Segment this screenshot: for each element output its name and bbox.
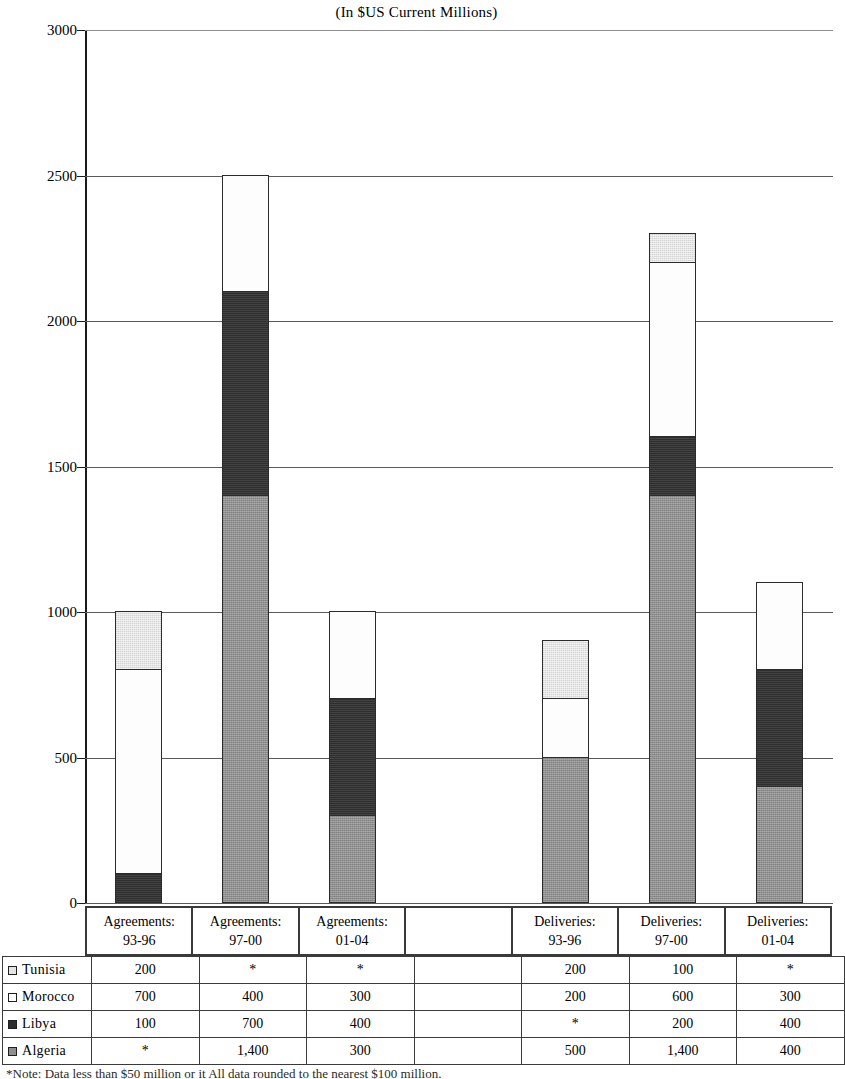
chart-plot-area: 050010001500200025003000 [0,22,833,912]
bar-agreements-97-00 [222,176,269,904]
legend-row-algeria: Algeria [3,1038,92,1065]
gridline-500 [85,758,833,759]
legend-label: Morocco [22,989,75,1004]
y-tick-label-0: 0 [5,896,77,911]
table-cell-libya-4: * [522,1011,630,1038]
bar-segment-morocco [329,611,376,699]
y-tick-2500 [77,176,85,177]
plot-canvas: 050010001500200025003000 [85,30,833,903]
gridline-2500 [85,176,833,177]
legend-row-libya: Libya [3,1011,92,1038]
legend-label: Algeria [22,1043,66,1058]
table-cell-algeria-6: 400 [737,1038,845,1065]
category-header-cell-1: Agreements:97-00 [193,908,299,954]
category-label-line2: 97-00 [655,931,688,950]
table-cell-morocco-1: 400 [199,984,307,1011]
bar-segment-morocco [649,262,696,438]
category-header-cell-3 [406,908,512,954]
y-tick-label-3000: 3000 [5,23,77,38]
table-row: Libya100700400*200400 [3,1011,845,1038]
table-cell-algeria-5: 1,400 [629,1038,737,1065]
category-label-line2: 01-04 [336,931,369,950]
y-tick-1500 [77,467,85,468]
table-cell-tunisia-4: 200 [522,957,630,984]
table-cell-tunisia-2: * [307,957,415,984]
table-cell-morocco-2: 300 [307,984,415,1011]
bar-agreements-01-04 [329,612,376,903]
footnote: *Note: Data less than $50 million or it … [6,1066,826,1079]
category-header-cell-6: Deliveries:01-04 [726,908,832,954]
gridline-0 [85,903,833,904]
category-label-line2: 93-96 [123,931,156,950]
category-header-cell-5: Deliveries:97-00 [619,908,725,954]
y-tick-label-1000: 1000 [5,605,77,620]
category-label-line1: Agreements: [103,912,175,931]
category-header-cell-0: Agreements:93-96 [87,908,193,954]
bar-agreements-93-96 [115,612,162,903]
table-row: Morocco700400300200600300 [3,984,845,1011]
y-tick-2000 [77,321,85,322]
bar-segment-algeria [756,786,803,903]
category-header-row: Agreements:93-96Agreements:97-00Agreemen… [85,906,832,956]
category-label-line2: 93-96 [549,931,582,950]
gridline-1000 [85,612,833,613]
bar-segment-libya [649,436,696,495]
category-label-line2: 01-04 [761,931,794,950]
gridline-2000 [85,321,833,322]
y-tick-label-1500: 1500 [5,460,77,475]
bar-segment-libya [115,873,162,903]
table-cell-tunisia-0: 200 [92,957,200,984]
bar-segment-algeria [649,495,696,903]
table-cell-algeria-3 [414,1038,522,1065]
table-cell-libya-2: 400 [307,1011,415,1038]
bar-segment-algeria [329,815,376,903]
table-cell-algeria-1: 1,400 [199,1038,307,1065]
legend-swatch-tunisia-icon [8,966,17,975]
bar-segment-tunisia [115,611,162,670]
bar-segment-libya [756,669,803,786]
data-table: Tunisia200**200100*Morocco70040030020060… [2,956,845,1065]
table-cell-morocco-3 [414,984,522,1011]
gridline-1500 [85,467,833,468]
legend-swatch-morocco-icon [8,993,17,1002]
category-label-line2: 97-00 [229,931,262,950]
table-row: Algeria*1,4003005001,400400 [3,1038,845,1065]
bar-segment-libya [329,698,376,815]
bar-segment-morocco [115,669,162,874]
category-label-line1: Deliveries: [641,912,702,931]
table-cell-morocco-6: 300 [737,984,845,1011]
bar-segment-algeria [222,495,269,903]
y-tick-label-500: 500 [5,751,77,766]
y-tick-label-2000: 2000 [5,314,77,329]
table-cell-tunisia-1: * [199,957,307,984]
bar-segment-tunisia [649,233,696,263]
bar-segment-morocco [542,698,589,757]
table-cell-libya-3 [414,1011,522,1038]
y-tick-0 [77,903,85,904]
table-cell-libya-5: 200 [629,1011,737,1038]
bar-segment-algeria [542,757,589,904]
table-cell-algeria-0: * [92,1038,200,1065]
category-label-line1: Agreements: [316,912,388,931]
chart-title: (In $US Current Millions) [0,3,833,21]
bar-segment-morocco [222,175,269,292]
legend-swatch-algeria-icon [8,1047,17,1056]
category-header-cell-2: Agreements:01-04 [300,908,406,954]
bar-segment-tunisia [542,640,589,699]
category-label-line1: Agreements: [210,912,282,931]
table-cell-tunisia-6: * [737,957,845,984]
legend-row-tunisia: Tunisia [3,957,92,984]
table-row: Tunisia200**200100* [3,957,845,984]
gridline-3000 [85,30,833,31]
bar-deliveries-01-04 [756,583,803,903]
legend-label: Libya [22,1016,56,1031]
table-cell-libya-0: 100 [92,1011,200,1038]
table-cell-algeria-2: 300 [307,1038,415,1065]
table-cell-tunisia-3 [414,957,522,984]
category-header-cell-4: Deliveries:93-96 [513,908,619,954]
y-tick-1000 [77,612,85,613]
bar-deliveries-97-00 [649,234,696,903]
legend-label: Tunisia [22,962,66,977]
legend-row-morocco: Morocco [3,984,92,1011]
table-cell-libya-6: 400 [737,1011,845,1038]
